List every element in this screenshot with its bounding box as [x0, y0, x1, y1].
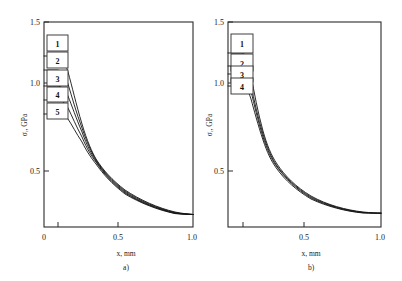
panel-a-xlabel-1.0: 1.0: [187, 233, 197, 242]
panel-b-plot: 1.5 1.0 0.5 0.5 1.0 x, mm σᵣ, GPa b) 1 2…: [201, 0, 402, 281]
panel-a-y-axis-title: σᵣ, GPa: [20, 113, 29, 136]
panel-a: 1.5 1.0 0.5 0 0.5 1.0 x, mm σᵣ, GPa a) 1…: [0, 0, 201, 281]
figure-container: 1.5 1.0 0.5 0 0.5 1.0 x, mm σᵣ, GPa a) 1…: [0, 0, 402, 281]
panel-a-ylabel-1.0: 1.0: [30, 79, 40, 88]
panel-b-caption: b): [308, 263, 315, 272]
panel-a-ylabel-1.5: 1.5: [30, 18, 40, 27]
panel-b-ylabel-0.5: 0.5: [214, 167, 224, 176]
panel-b: 1.5 1.0 0.5 0.5 1.0 x, mm σᵣ, GPa b) 1 2…: [201, 0, 402, 281]
panel-b-y-axis-title: σᵣ, GPa: [205, 113, 214, 136]
panel-a-x-axis-title: x, mm: [116, 249, 135, 258]
panel-a-curve-label-1: 1: [56, 40, 60, 49]
panel-a-curve-label-4: 4: [56, 91, 60, 100]
panel-a-xlabel-0.5: 0.5: [113, 233, 123, 242]
panel-b-curve-label-4: 4: [240, 83, 244, 92]
panel-a-curve-label-5: 5: [56, 108, 60, 117]
panel-a-curve-5: [44, 114, 193, 215]
panel-b-xlabel-1.0: 1.0: [375, 233, 385, 242]
panel-a-curve-label-3: 3: [56, 75, 60, 84]
panel-a-caption: a): [123, 263, 129, 272]
panel-a-ylabel-0.5: 0.5: [30, 167, 40, 176]
panel-b-ylabel-1.0: 1.0: [214, 79, 224, 88]
panel-a-xlabel-0: 0: [42, 233, 46, 242]
panel-b-curve-label-1: 1: [240, 40, 244, 49]
panel-b-ylabel-1.5: 1.5: [214, 18, 224, 27]
panel-a-curve-label-2: 2: [56, 57, 60, 66]
panel-b-x-axis-title: x, mm: [301, 249, 320, 258]
panel-b-xlabel-0.5: 0.5: [299, 233, 309, 242]
panel-a-plot: 1.5 1.0 0.5 0 0.5 1.0 x, mm σᵣ, GPa a) 1…: [0, 0, 201, 281]
